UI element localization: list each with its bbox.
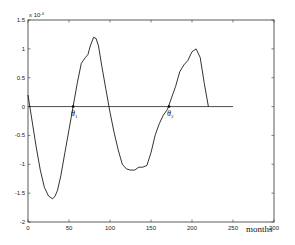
line-chart: 050100150200250300-2-1.5-1-0.500.511.5 θ…: [0, 0, 295, 245]
data-series: [28, 37, 208, 199]
x-tick-label: 100: [105, 225, 116, 231]
theta-annotation: θ2: [167, 109, 174, 119]
x-axis-label: months: [246, 224, 273, 234]
y-tick-label: -1: [20, 161, 26, 167]
y-multiplier-label: x 10-4: [29, 11, 45, 19]
y-tick-label: 1.5: [17, 17, 26, 23]
x-tick-label: 200: [187, 225, 198, 231]
y-tick-label: 1: [22, 46, 26, 52]
y-tick-label: 0.5: [17, 75, 26, 81]
x-tick-label: 250: [228, 225, 239, 231]
y-tick-label: -1.5: [15, 190, 26, 196]
y-tick-label: -0.5: [15, 132, 26, 138]
x-tick-label: 0: [26, 225, 30, 231]
x-tick-label: 50: [66, 225, 73, 231]
y-tick-label: -2: [20, 219, 26, 225]
theta-annotation: θ1: [71, 109, 78, 119]
x-tick-label: 150: [146, 225, 157, 231]
annotations: θ1θ2: [71, 105, 174, 118]
y-tick-label: 0: [22, 104, 26, 110]
axis-ticks: 050100150200250300-2-1.5-1-0.500.511.5: [15, 17, 280, 231]
axes-box: [28, 20, 274, 222]
